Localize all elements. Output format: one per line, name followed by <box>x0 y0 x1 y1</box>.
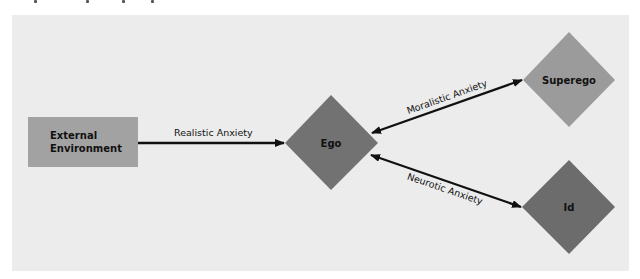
ego-label: Ego <box>321 138 342 149</box>
node-external-environment: External Environment <box>28 117 138 167</box>
neurotic-anxiety-label: Neurotic Anxiety <box>406 171 485 207</box>
external-environment-label-line1: External <box>50 130 97 141</box>
realistic-anxiety-label: Realistic Anxiety <box>174 127 253 138</box>
external-environment-label-line2: Environment <box>50 143 122 154</box>
anxiety-diagram: External Environment Realistic Anxiety E… <box>0 0 640 279</box>
superego-label: Superego <box>542 75 596 86</box>
external-environment-box <box>28 117 138 167</box>
node-ego: Ego <box>285 95 378 190</box>
edge-neurotic-anxiety: Neurotic Anxiety <box>371 155 521 207</box>
id-label: Id <box>564 202 575 213</box>
edge-realistic-anxiety: Realistic Anxiety <box>138 127 284 143</box>
neurotic-anxiety-arrow <box>371 155 521 207</box>
node-superego: Superego <box>523 32 615 127</box>
edge-moralistic-anxiety: Moralistic Anxiety <box>372 77 522 133</box>
node-id: Id <box>522 160 615 254</box>
moralistic-anxiety-arrow <box>372 80 522 133</box>
